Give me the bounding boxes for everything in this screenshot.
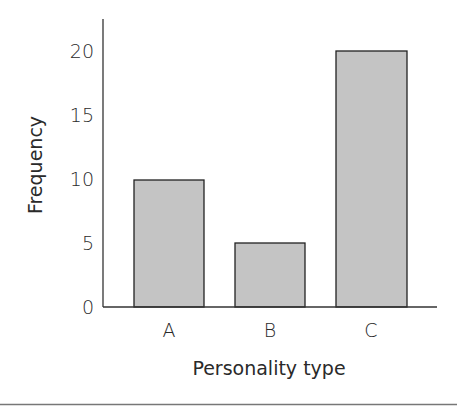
y-tick-5: 5 [82, 232, 94, 254]
y-tick-10: 10 [70, 168, 94, 190]
y-tick-labels: 0 5 10 15 20 [70, 40, 94, 318]
x-tick-c: C [364, 319, 377, 341]
x-tick-b: B [264, 319, 276, 341]
y-tick-15: 15 [70, 104, 94, 126]
y-tick-0: 0 [82, 296, 94, 318]
bar-chart: 0 5 10 15 20 A B C Personality type Freq… [0, 0, 457, 406]
bar-a [134, 180, 204, 307]
y-axis-label: Frequency [24, 116, 46, 214]
bars [134, 51, 407, 307]
bar-b [235, 243, 305, 307]
y-tick-20: 20 [70, 40, 94, 62]
x-axis-label: Personality type [192, 357, 345, 379]
bar-c [336, 51, 407, 307]
x-tick-a: A [163, 319, 176, 341]
x-tick-labels: A B C [163, 319, 378, 341]
